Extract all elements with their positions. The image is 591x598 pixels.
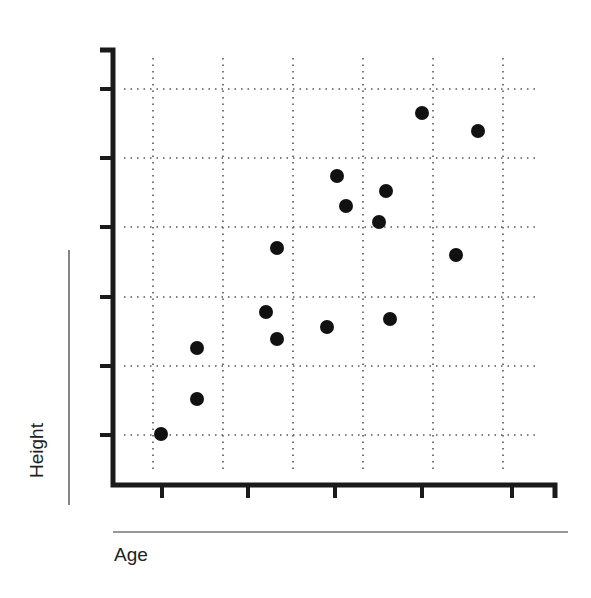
data-point — [154, 427, 168, 441]
x-axis-label: Age — [114, 544, 148, 566]
data-point — [415, 106, 429, 120]
data-point — [471, 124, 485, 138]
data-point — [372, 215, 386, 229]
data-point — [259, 305, 273, 319]
data-point — [383, 312, 397, 326]
axes — [100, 50, 555, 498]
scatter-chart — [0, 0, 591, 598]
data-point — [379, 184, 393, 198]
data-point — [330, 169, 344, 183]
data-points — [154, 106, 485, 441]
y-axis-label: Height — [26, 423, 48, 478]
axis-lines — [100, 50, 555, 498]
data-point — [320, 320, 334, 334]
data-point — [190, 341, 204, 355]
data-point — [190, 392, 204, 406]
data-point — [339, 199, 353, 213]
data-point — [449, 248, 463, 262]
data-point — [270, 332, 284, 346]
data-point — [270, 241, 284, 255]
grid-lines — [124, 58, 535, 470]
